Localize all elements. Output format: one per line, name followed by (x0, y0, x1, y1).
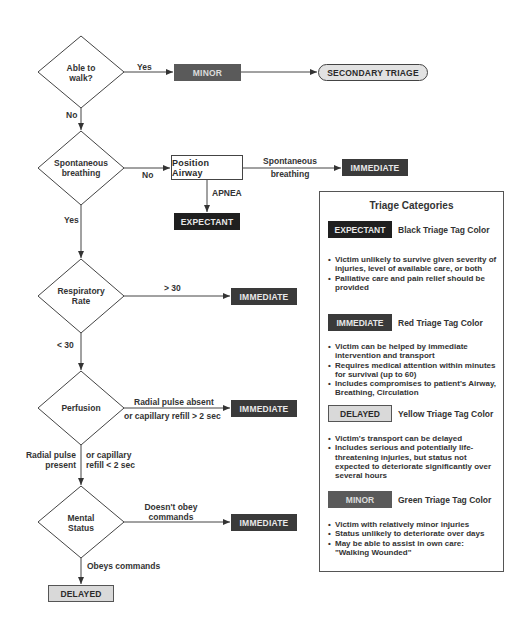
decision-resp-line2: Rate (41, 296, 121, 306)
legend-bullet: Victim unlikely to survive given severit… (328, 255, 500, 274)
triage-flowchart: Able to walk? Spontaneous breathing Resp… (0, 0, 531, 630)
decision-walk-line2: walk? (41, 73, 121, 83)
decision-breathing: Spontaneous breathing (41, 158, 121, 178)
legend-bullet: Includes compromises to patient's Airway… (328, 379, 500, 398)
edge-mental-not-obey-line1: Doesn't obey (138, 502, 204, 512)
edge-mental-not-obey-line2: commands (138, 512, 204, 522)
edge-breathing-no: No (142, 170, 153, 180)
legend-bullets-expectant: Victim unlikely to survive given severit… (328, 255, 500, 292)
legend-bullet: Victim can be helped by immediate interv… (328, 342, 500, 361)
decision-mental-line2: Status (41, 523, 121, 533)
node-immediate-resp: IMMEDIATE (231, 288, 297, 305)
edge-perfusion-absent-line2: or capillary refill > 2 sec (124, 411, 229, 421)
node-minor: MINOR (174, 64, 241, 81)
triage-categories-legend: Triage Categories EXPECTANT Black Triage… (319, 191, 504, 572)
edge-perfusion-present-left: Radial pulse present (18, 450, 76, 470)
decision-perfusion: Perfusion (41, 403, 121, 413)
decision-resp-line1: Respiratory (41, 286, 121, 296)
legend-title: Triage Categories (320, 200, 503, 211)
edge-airway-apnea: APNEA (212, 188, 242, 198)
node-immediate-perfusion: IMMEDIATE (231, 400, 297, 417)
edge-resp-lt30: < 30 (57, 340, 74, 350)
legend-tag-delayed: DELAYED (328, 405, 392, 422)
legend-bullet: Victim with relatively minor injuries (328, 520, 500, 529)
legend-color-immediate: Red Triage Tag Color (398, 318, 483, 328)
legend-bullet: Status unlikely to deteriorate over days (328, 529, 500, 538)
edge-perfusion-present-right-line1: or capillary (86, 450, 135, 460)
edge-perfusion-absent-line1: Radial pulse absent (134, 397, 229, 407)
legend-tag-expectant: EXPECTANT (328, 221, 392, 238)
edge-mental-obeys: Obeys commands (87, 561, 160, 571)
legend-bullet: Includes serious and potentially life-th… (328, 443, 500, 480)
decision-perfusion-line1: Perfusion (41, 403, 121, 413)
decision-resp: Respiratory Rate (41, 286, 121, 306)
legend-color-expectant: Black Triage Tag Color (398, 225, 489, 235)
node-immediate-mental: IMMEDIATE (231, 514, 297, 531)
legend-bullet: Palliative care and pain relief should b… (328, 274, 500, 293)
node-immediate-breathing: IMMEDIATE (342, 159, 408, 176)
edge-airway-spontaneous-line2: breathing (255, 169, 325, 179)
decision-breathing-line2: breathing (41, 168, 121, 178)
legend-color-delayed: Yellow Triage Tag Color (398, 409, 493, 419)
legend-bullet: Victim's transport can be delayed (328, 434, 500, 443)
legend-bullets-delayed: Victim's transport can be delayed Includ… (328, 434, 500, 480)
decision-walk-line1: Able to (41, 63, 121, 73)
edge-perfusion-absent: Radial pulse absent or capillary refill … (134, 397, 229, 421)
node-expectant: EXPECTANT (174, 213, 240, 230)
edge-perfusion-present-right: or capillary refill < 2 sec (86, 450, 135, 470)
legend-bullet: May be able to assist in own care: "Walk… (328, 539, 500, 558)
legend-color-minor: Green Triage Tag Color (398, 495, 491, 505)
decision-breathing-line1: Spontaneous (41, 158, 121, 168)
edge-perfusion-present-left-line2: present (18, 460, 76, 470)
edge-perfusion-present-right-line2: refill < 2 sec (86, 460, 135, 470)
decision-mental: Mental Status (41, 513, 121, 533)
edge-mental-not-obey: Doesn't obey commands (138, 502, 204, 522)
edge-perfusion-present-left-line1: Radial pulse (18, 450, 76, 460)
legend-bullet: Requires medical attention within minute… (328, 361, 500, 380)
legend-tag-immediate: IMMEDIATE (328, 314, 392, 331)
edge-airway-spontaneous-line1: Spontaneous (255, 156, 325, 166)
legend-bullets-minor: Victim with relatively minor injuries St… (328, 520, 500, 557)
edge-breathing-yes: Yes (64, 215, 79, 225)
edge-airway-spontaneous: Spontaneous breathing (255, 156, 325, 179)
legend-bullets-immediate: Victim can be helped by immediate interv… (328, 342, 500, 398)
decision-walk: Able to walk? (41, 63, 121, 83)
edge-walk-yes: Yes (137, 62, 152, 72)
node-delayed: DELAYED (48, 585, 114, 602)
node-secondary-triage: SECONDARY TRIAGE (318, 64, 428, 81)
edge-resp-gt30: > 30 (164, 283, 181, 293)
edge-walk-no: No (66, 110, 77, 120)
legend-tag-minor: MINOR (328, 491, 392, 508)
node-position-airway: Position Airway (171, 155, 243, 180)
decision-mental-line1: Mental (41, 513, 121, 523)
